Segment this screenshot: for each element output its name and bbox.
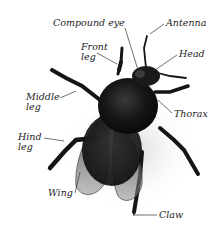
label-thorax: Thorax bbox=[174, 109, 208, 119]
label-head: Head bbox=[179, 49, 205, 59]
bee-anatomy-diagram: Compound eye Antenna Front leg Head Midd… bbox=[0, 0, 215, 233]
thorax bbox=[98, 78, 158, 134]
label-middle-leg: Middle leg bbox=[26, 92, 60, 112]
label-hind-leg: Hind leg bbox=[18, 132, 42, 152]
compound-eye bbox=[135, 70, 145, 78]
label-compound-eye: Compound eye bbox=[53, 18, 125, 28]
label-front-leg: Front leg bbox=[81, 42, 108, 62]
label-antenna: Antenna bbox=[166, 18, 206, 28]
label-wing: Wing bbox=[48, 188, 73, 198]
label-claw: Claw bbox=[159, 210, 183, 220]
